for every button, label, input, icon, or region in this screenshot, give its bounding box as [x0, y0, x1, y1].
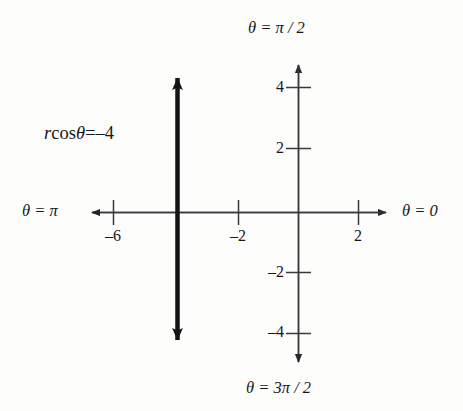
y-tick-label-neg4: –4: [244, 324, 284, 340]
equation-cos: cos: [51, 123, 76, 143]
y-tick-label-pos2: 2: [244, 140, 284, 156]
x-tick-label-neg2: –2: [218, 228, 258, 244]
y-tick-label-pos4: 4: [244, 79, 284, 95]
axis-label-theta-half-pi: θ = π / 2: [248, 20, 305, 37]
axis-label-theta-pi: θ = π: [22, 203, 58, 220]
equation-value: –4: [95, 123, 114, 143]
polar-graph-figure: theta = 0) --> theta = pi/2) -->: [0, 0, 463, 411]
y-tick-label-neg2: –2: [244, 264, 284, 280]
axis-label-theta-zero: θ = 0: [402, 203, 438, 220]
equation-theta: θ: [76, 123, 85, 143]
equation-annotation: rcosθ=–4: [44, 124, 114, 143]
x-tick-label-pos2: 2: [338, 228, 378, 244]
axis-label-theta-three-half-pi: θ = 3π / 2: [246, 380, 311, 397]
x-tick-label-neg6: –6: [93, 228, 133, 244]
plot-canvas: theta = 0) --> theta = pi/2) -->: [0, 0, 463, 411]
equation-equals: =: [85, 123, 95, 143]
